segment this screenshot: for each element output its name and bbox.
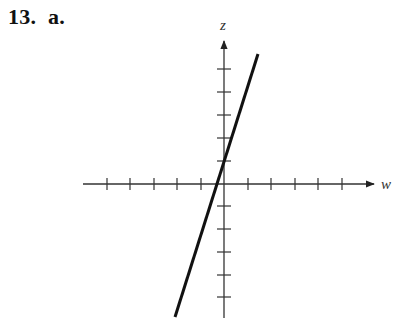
- plotted-line: [175, 54, 258, 317]
- w-axis-label: w: [381, 176, 391, 192]
- graph: z w: [0, 0, 408, 332]
- z-axis-label: z: [219, 17, 226, 33]
- w-axis: [83, 178, 374, 190]
